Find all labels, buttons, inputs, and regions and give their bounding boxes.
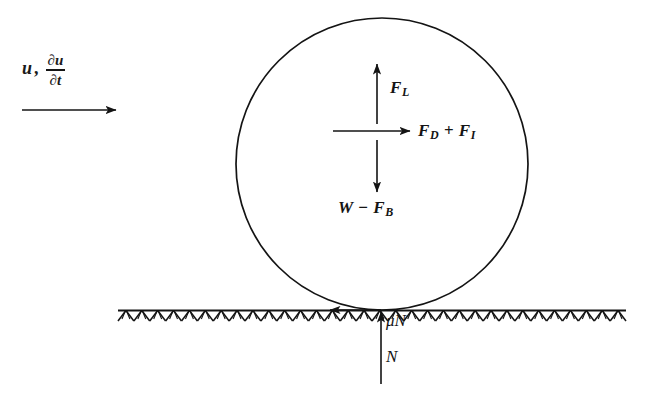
force-drag-inertia-label: FD+FI bbox=[418, 122, 476, 141]
flow-label-separator: , bbox=[34, 58, 44, 81]
force-friction-label: μN bbox=[386, 312, 406, 329]
flow-acceleration-denominator: ∂t bbox=[48, 71, 64, 88]
force-diagram-svg bbox=[0, 0, 664, 394]
force-normal-label: N bbox=[386, 348, 397, 365]
force-weight-symbol: W bbox=[338, 198, 353, 217]
spherical-particle bbox=[236, 18, 528, 310]
force-buoyancy-symbol: F bbox=[373, 198, 385, 217]
force-buoyancy-subscript: B bbox=[385, 205, 393, 219]
force-lift-subscript: L bbox=[402, 85, 410, 99]
bed-hatching bbox=[118, 311, 626, 322]
minus-operator: − bbox=[358, 198, 368, 217]
force-lift-label: FL bbox=[390, 79, 410, 98]
flow-velocity-label: u , ∂u ∂t bbox=[22, 52, 65, 88]
flow-acceleration-fraction: ∂u ∂t bbox=[46, 52, 66, 88]
figure-canvas: u , ∂u ∂t FL FD+FI W−FB μN N bbox=[0, 0, 664, 394]
force-inertia-symbol: F bbox=[459, 121, 471, 140]
plus-operator: + bbox=[444, 121, 454, 140]
force-weight-buoyancy-label: W−FB bbox=[338, 199, 393, 218]
force-inertia-subscript: I bbox=[471, 128, 476, 142]
force-drag-symbol: F bbox=[418, 121, 430, 140]
bed-surface bbox=[118, 311, 626, 322]
flow-velocity-symbol: u bbox=[22, 58, 32, 81]
force-lift-symbol: F bbox=[390, 78, 402, 97]
flow-acceleration-numerator: ∂u bbox=[46, 52, 66, 69]
force-drag-subscript: D bbox=[430, 128, 439, 142]
